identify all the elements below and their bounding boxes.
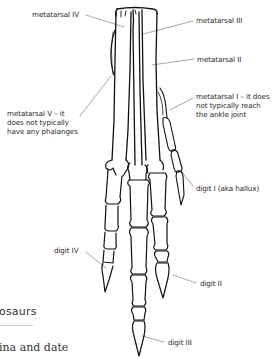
metatarsals	[111, 8, 167, 166]
leader-digit-iii	[142, 336, 164, 342]
label-digit-iii: digit III	[168, 338, 192, 347]
label-metatarsal-ii: metatarsal II	[197, 55, 241, 64]
label-metatarsal-iv: metatarsal IV	[32, 10, 79, 19]
label-digit-iv: digit IV	[54, 246, 78, 255]
digit-iii-bones	[128, 163, 150, 356]
digit-ii-bones	[147, 160, 170, 298]
label-metatarsal-v: metatarsal V – it does not typically hav…	[7, 109, 78, 136]
heading-underline	[0, 325, 33, 326]
label-metatarsal-i: metatarsal I – it does not typically rea…	[196, 92, 270, 119]
digit-iv-bones	[102, 160, 129, 292]
leader-metatarsal-v	[80, 76, 111, 116]
body-text-fragment: ina and date	[0, 341, 68, 354]
leader-metatarsal-ii	[152, 59, 194, 65]
leader-digit-ii	[173, 275, 196, 283]
section-heading-fragment: osaurs	[0, 305, 37, 318]
label-metatarsal-iii: metatarsal III	[196, 16, 242, 25]
figure-canvas: metatarsal IV metatarsal III metatarsal …	[0, 0, 274, 358]
leader-lines	[80, 15, 196, 342]
leader-metatarsal-i	[170, 98, 193, 110]
leader-metatarsal-iv	[86, 15, 124, 27]
label-digit-ii: digit II	[200, 279, 222, 288]
foot-skeleton-illustration	[0, 0, 274, 358]
leader-metatarsal-iii	[143, 21, 193, 34]
label-digit-i: digit I (aka hallux)	[196, 184, 259, 193]
